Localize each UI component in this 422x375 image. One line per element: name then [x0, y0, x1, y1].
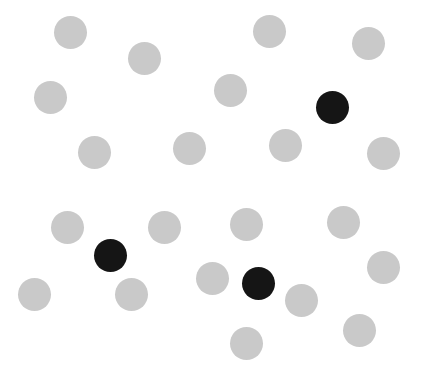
gray-dot [367, 137, 400, 170]
gray-dot [367, 251, 400, 284]
gray-dot [128, 42, 161, 75]
gray-dot [115, 278, 148, 311]
gray-dot [18, 278, 51, 311]
gray-dot [148, 211, 181, 244]
gray-dot [327, 206, 360, 239]
gray-dot [343, 314, 376, 347]
gray-dot [196, 262, 229, 295]
gray-dot [214, 74, 247, 107]
gray-dot [54, 16, 87, 49]
black-dot [94, 239, 127, 272]
gray-dot [230, 208, 263, 241]
gray-dot [269, 129, 302, 162]
gray-dot [352, 27, 385, 60]
gray-dot [230, 327, 263, 360]
gray-dot [34, 81, 67, 114]
gray-dot [78, 136, 111, 169]
gray-dot [285, 284, 318, 317]
gray-dot [253, 15, 286, 48]
black-dot [242, 267, 275, 300]
dot-field [0, 0, 422, 375]
black-dot [316, 91, 349, 124]
gray-dot [51, 211, 84, 244]
gray-dot [173, 132, 206, 165]
